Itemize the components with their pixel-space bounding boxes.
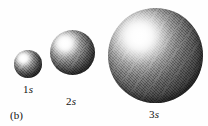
orbital-label-3s-subshell: s [155, 108, 159, 120]
orbital-size-figure: 1s 2s 3s (b) [0, 0, 208, 126]
orbital-label-1s-subshell: s [29, 83, 33, 95]
orbital-label-2s-subshell: s [72, 95, 76, 107]
orbital-label-1s: 1s [23, 84, 33, 95]
orbital-label-2s: 2s [66, 96, 76, 107]
orbital-label-3s: 3s [149, 109, 159, 120]
orbital-sphere-1s [14, 50, 42, 78]
orbital-sphere-3s [108, 8, 203, 103]
panel-label: (b) [10, 110, 23, 121]
orbital-sphere-2s [50, 30, 95, 75]
